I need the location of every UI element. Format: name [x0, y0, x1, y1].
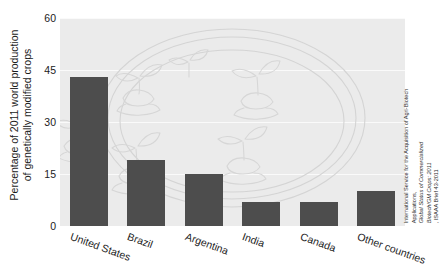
bar-series [60, 18, 405, 226]
x-tick-label: United States [69, 230, 132, 263]
source-line-2: Applications, Global Status of Commercia… [411, 89, 426, 224]
y-tick-label: 15 [34, 168, 56, 180]
y-axis-label-line-1: Percentage of 2011 world production [8, 30, 21, 201]
bar [242, 202, 280, 226]
source-line-2-italic: Global Status of Commercialized [418, 89, 426, 224]
x-tick-label: Brazil [126, 230, 155, 250]
y-tick-label: 45 [34, 64, 56, 76]
y-tick-label: 0 [34, 220, 56, 232]
y-tick-label: 60 [34, 12, 56, 24]
source-line-3-italic: Biotech/GM Crops: 2011 [426, 89, 434, 224]
x-tick-label: Other countries [356, 230, 428, 266]
y-tick-label: 30 [34, 116, 56, 128]
plot-area [60, 18, 405, 226]
x-tick-label: India [241, 230, 267, 249]
bar [185, 174, 223, 226]
bar [300, 202, 338, 226]
x-tick-label: Canada [299, 230, 338, 254]
bar [70, 77, 108, 226]
bar [127, 160, 165, 226]
source-line-3: Biotech/GM Crops: 2011, ISAAA Brief 43-2… [426, 89, 440, 224]
source-line-3-plain: , ISAAA Brief 43-2011 [433, 89, 440, 224]
x-tick-label: Argentina [184, 230, 230, 257]
y-axis-ticks: 015304560 [30, 0, 56, 280]
gm-crops-bar-chart: Percentage of 2011 world production of g… [0, 0, 440, 280]
bar [357, 191, 395, 226]
source-line-2-plain: Applications, [411, 89, 419, 224]
source-line-1: International Service for the Acquisitio… [403, 89, 411, 224]
source-note: International Service for the Acquisitio… [404, 96, 440, 216]
x-axis-ticks: United StatesBrazilArgentinaIndiaCanadaO… [60, 226, 405, 280]
